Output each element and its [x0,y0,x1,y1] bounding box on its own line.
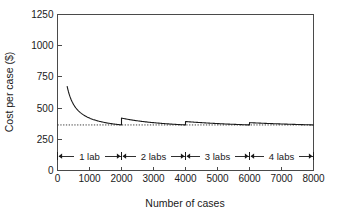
y-tick-label: 250 [37,134,54,145]
lab-span-annotations: 1 lab2 labs3 labs4 labs [58,151,314,162]
x-tick-label: 6000 [238,173,261,184]
chart-figure: 025050075010001250 010002000300040005000… [0,0,338,212]
y-tick-label: 750 [37,71,54,82]
lab-span-label: 4 labs [269,151,295,162]
x-axis-tick-labels: 010002000300040005000600070008000 [55,173,325,184]
y-tick-label: 1000 [31,40,54,51]
x-tick-label: 4000 [174,173,197,184]
y-tick-label: 500 [37,103,54,114]
x-tick-label: 2000 [110,173,133,184]
y-axis-title: Cost per case ($) [3,52,15,133]
y-tick-label: 1250 [31,9,54,20]
lab-span-label: 2 labs [141,151,167,162]
x-tick-label: 3000 [142,173,165,184]
y-tick-label: 0 [48,165,54,176]
x-tick-label: 5000 [206,173,229,184]
lab-span-label: 3 labs [205,151,231,162]
cost-per-case-chart: 025050075010001250 010002000300040005000… [0,0,338,212]
x-axis-title: Number of cases [145,197,224,209]
x-tick-label: 0 [55,173,61,184]
x-tick-label: 7000 [270,173,293,184]
x-tick-label: 8000 [302,173,325,184]
x-tick-label: 1000 [78,173,101,184]
lab-span-label: 1 lab [79,151,100,162]
